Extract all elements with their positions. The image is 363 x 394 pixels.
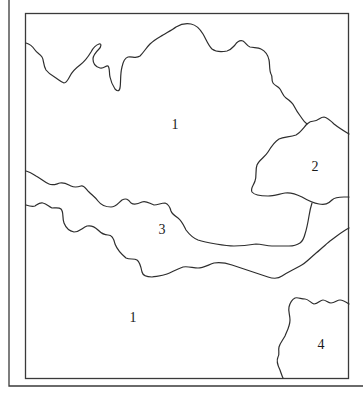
region-label-2: 2: [312, 159, 319, 174]
region-3-upper-boundary: [26, 171, 312, 246]
region-label-1-south: 1: [130, 310, 137, 325]
region-4-boundary: [277, 298, 349, 378]
region-2-boundary: [251, 117, 349, 204]
region-map: 1 2 3 1 4: [0, 0, 363, 394]
region-label-4: 4: [318, 337, 325, 352]
region-label-3: 3: [159, 222, 166, 237]
region-3-lower-boundary: [26, 203, 349, 279]
north-coast-boundary: [26, 24, 307, 124]
outer-frame: [9, 0, 363, 386]
region-label-1-north: 1: [172, 117, 179, 132]
